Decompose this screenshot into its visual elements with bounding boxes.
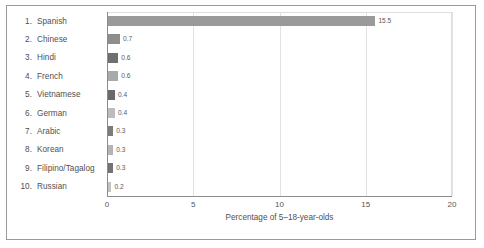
category-rank: 4.	[15, 72, 32, 81]
category-name: Korean	[37, 145, 64, 154]
category-rank: 5.	[15, 90, 32, 99]
category-name: Spanish	[37, 17, 67, 26]
bar-value-label: 0.6	[121, 71, 130, 81]
bar	[108, 71, 118, 81]
bar-row: 0.4	[107, 86, 452, 104]
bar-value-label: 15.5	[378, 16, 391, 26]
category-name: Arabic	[37, 127, 61, 136]
x-axis-title: Percentage of 5–18-year-olds	[107, 213, 452, 222]
category-label-row: 2.Chinese	[15, 30, 107, 48]
bar	[108, 163, 113, 173]
category-label-row: 7.Arabic	[15, 122, 107, 140]
bar	[108, 145, 113, 155]
x-tick-label: 20	[448, 200, 457, 209]
category-name: Russian	[37, 182, 67, 191]
bar-row: 0.3	[107, 141, 452, 159]
category-label-column: 1.Spanish2.Chinese3.Hindi4.French5.Vietn…	[15, 12, 107, 196]
category-name: Filipino/Tagalog	[37, 164, 95, 173]
bar-value-label: 0.3	[116, 163, 125, 173]
x-tick-label: 10	[275, 200, 284, 209]
bar-value-label: 0.3	[116, 126, 125, 136]
bar-value-label: 0.4	[118, 108, 127, 118]
bar	[108, 53, 118, 63]
category-label-row: 3.Hindi	[15, 49, 107, 67]
category-rank: 8.	[15, 145, 32, 154]
bar-row: 0.6	[107, 67, 452, 85]
x-tick-label: 0	[105, 200, 109, 209]
bar	[108, 182, 111, 192]
bar-row: 0.4	[107, 104, 452, 122]
bar	[108, 90, 115, 100]
bar-value-label: 0.4	[118, 90, 127, 100]
x-tick-label: 5	[191, 200, 195, 209]
category-rank: 2.	[15, 35, 32, 44]
bar-value-label: 0.7	[123, 34, 132, 44]
category-name: German	[37, 109, 67, 118]
category-rank: 3.	[15, 53, 32, 62]
category-rank: 10.	[15, 182, 32, 191]
category-rank: 6.	[15, 109, 32, 118]
category-rank: 1.	[15, 17, 32, 26]
bar-row: 0.7	[107, 30, 452, 48]
chart-figure: 1.Spanish2.Chinese3.Hindi4.French5.Vietn…	[6, 5, 476, 240]
bar	[108, 16, 375, 26]
category-label-row: 6.German	[15, 104, 107, 122]
bar-row: 0.6	[107, 49, 452, 67]
category-name: French	[37, 72, 63, 81]
x-tick-label: 15	[361, 200, 370, 209]
bar-row: 0.3	[107, 122, 452, 140]
bar-value-label: 0.3	[116, 145, 125, 155]
bar-row: 15.5	[107, 12, 452, 30]
x-axis-line	[107, 196, 452, 197]
category-label-row: 8.Korean	[15, 141, 107, 159]
category-name: Hindi	[37, 53, 56, 62]
category-rank: 7.	[15, 127, 32, 136]
bar	[108, 34, 120, 44]
bar-row: 0.2	[107, 178, 452, 196]
category-label-row: 10.Russian	[15, 178, 107, 196]
bar-value-label: 0.2	[114, 182, 123, 192]
bar-value-label: 0.6	[121, 53, 130, 63]
category-rank: 9.	[15, 164, 32, 173]
bar-row: 0.3	[107, 159, 452, 177]
category-label-row: 9.Filipino/Tagalog	[15, 159, 107, 177]
category-label-row: 5.Vietnamese	[15, 86, 107, 104]
category-name: Chinese	[37, 35, 67, 44]
gridline-20	[452, 12, 453, 196]
plot-area: 15.50.70.60.60.40.40.30.30.30.2 05101520…	[107, 12, 457, 196]
category-label-row: 1.Spanish	[15, 12, 107, 30]
category-name: Vietnamese	[37, 90, 81, 99]
bar	[108, 126, 113, 136]
bar	[108, 108, 115, 118]
category-label-row: 4.French	[15, 67, 107, 85]
